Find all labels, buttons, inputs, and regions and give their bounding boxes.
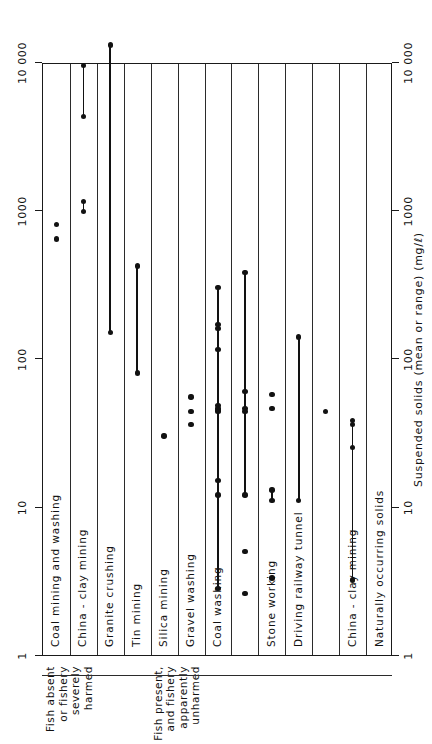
row-category-label: Coal mining and washing xyxy=(49,494,61,647)
range-endpoint-marker xyxy=(242,270,247,275)
plot-area: Coal mining and washingChina - clay mini… xyxy=(42,63,392,656)
range-endpoint-marker xyxy=(135,263,140,268)
axis-tick-label: 1 xyxy=(16,652,29,660)
axis-tick-label: 10 xyxy=(16,500,29,515)
range-bar xyxy=(217,288,219,589)
group-label-fish-present: Fish present, and fishery apparently unh… xyxy=(152,660,202,741)
data-point-marker xyxy=(161,433,166,438)
range-endpoint-marker xyxy=(269,498,274,503)
data-point-marker xyxy=(215,409,220,414)
chart-row: Naturally occurring solids xyxy=(366,64,393,655)
row-category-label: Tin mining xyxy=(130,583,142,647)
row-category-label: Stone working xyxy=(265,560,277,647)
range-endpoint-marker xyxy=(81,114,86,119)
chart-row: Coal mining and washing xyxy=(43,64,70,655)
axis-tick xyxy=(35,210,42,211)
chart-row: Tin mining xyxy=(124,64,151,655)
chart-row: Granite crushing xyxy=(97,64,124,655)
group-label-fish-absent: Fish absent or fishery severely harmed xyxy=(44,660,94,744)
axis-tick xyxy=(35,655,42,656)
range-endpoint-marker xyxy=(108,330,113,335)
range-bar xyxy=(83,65,85,116)
row-category-label: Granite crushing xyxy=(103,545,115,647)
data-point-marker xyxy=(269,392,274,397)
range-bar xyxy=(244,273,246,495)
axis-tick-label: 100 xyxy=(16,348,29,371)
range-endpoint-marker xyxy=(81,209,86,214)
chart-row xyxy=(231,64,258,655)
axis-tick xyxy=(392,359,399,360)
row-category-label: Gravel washing xyxy=(184,553,196,647)
data-point-marker xyxy=(54,236,59,241)
axis-tick xyxy=(392,210,399,211)
range-bar xyxy=(109,45,111,332)
data-point-marker xyxy=(215,347,220,352)
data-point-marker xyxy=(215,326,220,331)
data-point-marker xyxy=(269,575,274,580)
axis-tick xyxy=(35,62,42,63)
range-endpoint-marker xyxy=(242,492,247,497)
range-endpoint-marker xyxy=(269,487,274,492)
range-endpoint-marker xyxy=(215,478,220,483)
row-category-label: China - clay mining xyxy=(76,529,88,647)
data-point-marker xyxy=(242,549,247,554)
data-point-marker xyxy=(188,422,193,427)
range-endpoint-marker xyxy=(350,577,355,582)
data-point-marker xyxy=(188,409,193,414)
data-point-marker xyxy=(242,591,247,596)
range-endpoint-marker xyxy=(215,492,220,497)
range-endpoint-marker xyxy=(108,42,113,47)
axis-tick xyxy=(392,507,399,508)
data-point-marker xyxy=(350,445,355,450)
data-point-marker xyxy=(188,394,193,399)
data-point-marker xyxy=(54,222,59,227)
chart-row: Coal washing xyxy=(205,64,232,655)
data-point-marker xyxy=(269,406,274,411)
chart-row: Driving railway tunnel xyxy=(285,64,312,655)
range-endpoint-marker xyxy=(215,285,220,290)
chart-row: China - clay mining xyxy=(70,64,97,655)
row-category-label: Silica mining xyxy=(157,568,169,647)
axis-tick xyxy=(35,507,42,508)
chart-row: Gravel washing xyxy=(178,64,205,655)
x-axis-label: Suspended solids (mean or range) (mg/ℓ) xyxy=(412,63,425,656)
range-endpoint-marker xyxy=(242,406,247,411)
range-endpoint-marker xyxy=(81,63,86,68)
range-endpoint-marker xyxy=(296,334,301,339)
chart-row: China - clay mining xyxy=(339,64,366,655)
range-endpoint-marker xyxy=(296,498,301,503)
range-bar xyxy=(136,266,138,373)
group-divider xyxy=(42,675,392,676)
data-point-marker xyxy=(323,409,328,414)
axis-tick xyxy=(35,359,42,360)
chart-row: Silica mining xyxy=(151,64,178,655)
data-point-marker xyxy=(242,389,247,394)
range-endpoint-marker xyxy=(135,370,140,375)
row-category-label: Naturally occurring solids xyxy=(373,490,385,647)
axis-tick xyxy=(392,62,399,63)
axis-tick-label: 10 000 xyxy=(16,42,29,84)
chart-row: Stone working xyxy=(258,64,285,655)
row-category-label: Driving railway tunnel xyxy=(292,511,304,647)
chart-row xyxy=(312,64,339,655)
axis-tick xyxy=(392,655,399,656)
range-endpoint-marker xyxy=(81,199,86,204)
range-bar xyxy=(298,337,300,501)
axis-tick-label: 1000 xyxy=(16,196,29,226)
